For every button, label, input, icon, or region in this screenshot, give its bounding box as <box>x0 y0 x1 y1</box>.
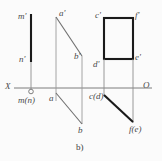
descriptive-geometry-figure: X O m' n' m(n) a' b' a b c' f' d' e' c(d… <box>0 0 162 161</box>
label-a: a <box>49 94 54 103</box>
label-b-prime: b' <box>74 52 80 61</box>
segment-a-b <box>56 93 82 124</box>
point-m-n-marker <box>29 89 34 94</box>
label-d-prime: d' <box>93 60 99 69</box>
label-f-e: f(e) <box>129 125 142 134</box>
label-f-prime: f' <box>135 11 139 20</box>
label-n-prime: n' <box>19 55 25 64</box>
label-x-axis: X <box>5 82 11 91</box>
label-c-prime: c' <box>95 11 101 20</box>
figure-drawing-canvas <box>0 0 162 161</box>
label-m-prime: m' <box>18 12 26 21</box>
label-a-prime: a' <box>59 9 65 18</box>
segment-c-d-f-e <box>104 95 133 122</box>
label-m-n: m(n) <box>18 96 35 105</box>
label-b: b <box>78 126 83 135</box>
label-o-axis: O <box>143 81 150 90</box>
label-e-prime: e' <box>135 53 141 62</box>
rectangle-c-f-e-d <box>104 18 133 59</box>
figure-caption: b) <box>76 143 84 152</box>
label-c-d: c(d) <box>89 92 104 101</box>
